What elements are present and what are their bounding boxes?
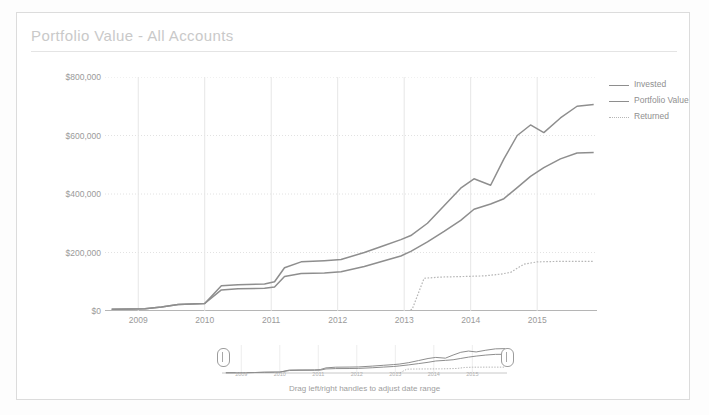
x-axis: 2009201020112012201320142015 xyxy=(105,315,597,331)
y-axis: $0$200,000$400,000$600,000$800,000 xyxy=(17,77,101,311)
range-right-handle[interactable] xyxy=(501,348,514,367)
series-line xyxy=(408,261,594,311)
legend-swatch-icon xyxy=(609,81,629,90)
range-tick-label: 2010 xyxy=(274,371,286,377)
x-axis-tick-label: 2012 xyxy=(328,315,347,325)
series-line xyxy=(112,152,594,309)
page-title: Portfolio Value - All Accounts xyxy=(31,27,234,44)
legend-item-label: Portfolio Value xyxy=(634,95,689,105)
y-axis-tick-label: $400,000 xyxy=(66,189,101,199)
legend-item-invested[interactable]: Invested xyxy=(609,79,689,90)
legend-swatch-icon xyxy=(609,113,629,122)
chart-legend: InvestedPortfolio ValueReturned xyxy=(609,79,689,127)
y-axis-tick-label: $800,000 xyxy=(66,72,101,82)
legend-swatch-icon xyxy=(609,97,629,106)
range-tick-label: 2009 xyxy=(235,371,247,377)
range-series-line xyxy=(397,367,505,373)
range-mini-svg xyxy=(222,345,507,375)
y-axis-tick-label: $200,000 xyxy=(66,248,101,258)
title-divider xyxy=(31,51,677,52)
range-hint-text: Drag left/right handles to adjust date r… xyxy=(222,384,507,393)
range-tick-label: 2012 xyxy=(351,371,363,377)
x-axis-tick-label: 2011 xyxy=(262,315,280,325)
range-tick-label: 2011 xyxy=(312,371,324,377)
range-tick-label: 2015 xyxy=(466,371,478,377)
range-tick-label: 2014 xyxy=(428,371,440,377)
x-axis-tick-label: 2014 xyxy=(461,315,480,325)
x-axis-tick-label: 2010 xyxy=(195,315,214,325)
x-axis-tick-label: 2015 xyxy=(528,315,547,325)
range-tick-label: 2013 xyxy=(389,371,401,377)
plot-area xyxy=(105,77,597,311)
y-axis-tick-label: $600,000 xyxy=(66,131,101,141)
x-axis-tick-label: 2009 xyxy=(129,315,148,325)
legend-item-label: Invested xyxy=(634,79,666,89)
y-axis-tick-label: $0 xyxy=(92,306,101,316)
range-mini-chart xyxy=(222,345,507,375)
legend-item-portfolio-value[interactable]: Portfolio Value xyxy=(609,95,689,106)
plot-svg xyxy=(105,77,597,311)
portfolio-value-chart: $0$200,000$400,000$600,000$800,000 20092… xyxy=(17,57,689,337)
x-axis-tick-label: 2013 xyxy=(395,315,414,325)
range-series-line xyxy=(226,349,505,373)
date-range-selector[interactable]: 2009201020112012201320142015 xyxy=(222,345,507,381)
range-series-line xyxy=(226,354,505,372)
portfolio-value-card: Portfolio Value - All Accounts $0$200,00… xyxy=(16,12,690,400)
legend-item-label: Returned xyxy=(634,111,669,121)
range-left-handle[interactable] xyxy=(217,348,230,367)
legend-item-returned[interactable]: Returned xyxy=(609,111,689,122)
